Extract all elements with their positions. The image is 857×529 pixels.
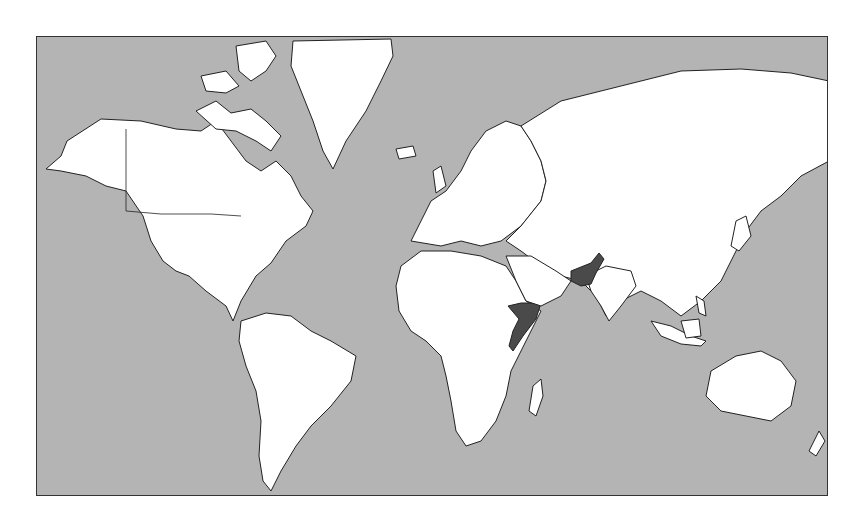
south-america [239,313,356,491]
north-america [46,119,313,321]
madagascar [529,379,543,416]
arctic-islands-3 [201,71,239,93]
uk [433,166,446,193]
arctic-islands-2 [236,41,276,81]
greenland [291,39,393,169]
philippines [696,296,706,316]
australia [706,351,796,421]
iceland [396,146,416,159]
world-map-svg [37,37,828,496]
world-map [36,36,828,496]
new-zealand [809,431,825,456]
